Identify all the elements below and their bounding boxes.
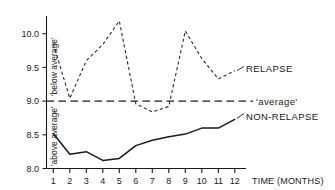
x-tick-2: 2 — [67, 176, 72, 186]
x-tick-8: 8 — [166, 176, 171, 186]
y-tick-8-0: 8.0 — [26, 164, 39, 174]
x-axis-tick-labels: 1 2 3 4 5 6 7 8 9 10 11 12 — [51, 176, 240, 186]
relapse-chart-figure: 8.0 8.5 9.0 9.5 10.0 1 2 3 4 5 — [0, 0, 335, 190]
x-axis-ticks — [53, 169, 235, 174]
x-tick-10: 10 — [197, 176, 207, 186]
y-tick-9-0: 9.0 — [26, 96, 39, 106]
x-tick-9: 9 — [183, 176, 188, 186]
line-chart-plot: 8.0 8.5 9.0 9.5 10.0 1 2 3 4 5 — [0, 0, 335, 190]
x-tick-3: 3 — [84, 176, 89, 186]
x-tick-12: 12 — [230, 176, 240, 186]
region-label-above-average: 'above average' — [49, 106, 59, 166]
series-label-relapse: RELAPSE — [246, 63, 293, 74]
relapse-label-leader — [237, 67, 244, 71]
y-axis-tick-labels: 8.0 8.5 9.0 9.5 10.0 — [21, 29, 39, 174]
y-tick-9-5: 9.5 — [26, 63, 39, 73]
series-non-relapse-line — [53, 119, 235, 160]
y-tick-10-0: 10.0 — [21, 29, 39, 39]
x-tick-5: 5 — [117, 176, 122, 186]
y-axis-ticks — [43, 34, 47, 169]
x-axis-title: TIME (MONTHS) — [252, 176, 324, 186]
series-relapse-line — [53, 21, 235, 112]
x-tick-11: 11 — [214, 176, 223, 186]
non-relapse-label-leader — [237, 114, 244, 119]
x-tick-1: 1 — [51, 176, 56, 186]
x-tick-7: 7 — [150, 176, 155, 186]
x-tick-4: 4 — [100, 176, 105, 186]
x-tick-6: 6 — [133, 176, 138, 186]
y-tick-8-5: 8.5 — [26, 130, 39, 140]
series-label-average: 'average' — [256, 96, 298, 107]
series-label-non-relapse: NON-RELAPSE — [246, 111, 319, 122]
